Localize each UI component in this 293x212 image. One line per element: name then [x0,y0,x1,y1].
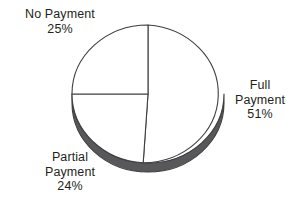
slice-label-no-payment-percent: 25% [8,22,112,37]
pie-chart: No Payment 25% Full Payment 51% Partial … [0,0,293,212]
slice-label-full-payment: Full Payment 51% [228,78,292,122]
slice-label-full-payment-percent: 51% [228,107,292,122]
slice-label-partial-payment-name-line1: Partial [22,150,118,165]
slice-label-partial-payment: Partial Payment 24% [22,150,118,194]
slice-label-full-payment-name-line2: Payment [228,93,292,108]
pie-top-face [72,25,218,163]
slice-label-partial-payment-name-line2: Payment [22,165,118,180]
slice-label-full-payment-name-line1: Full [228,78,292,93]
slice-label-partial-payment-percent: 24% [22,179,118,194]
slice-label-no-payment-name: No Payment [8,7,112,22]
slice-label-no-payment: No Payment 25% [8,7,112,36]
